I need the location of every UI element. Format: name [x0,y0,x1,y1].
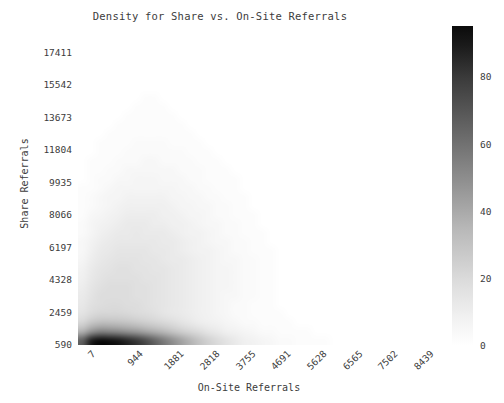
x-tick-label: 944 [125,348,145,368]
plot-area[interactable] [78,40,420,345]
y-tick-label: 11804 [0,144,72,155]
y-tick-label: 9935 [0,176,72,187]
x-tick-label: 8439 [412,348,436,372]
colorbar-tick-label: 20 [480,272,491,283]
x-tick-label: 2818 [198,348,222,372]
y-tick-label: 15542 [0,79,72,90]
chart-figure: Density for Share vs. On-Site Referrals … [0,0,504,403]
density-heatmap[interactable] [78,40,420,345]
x-tick-label: 4691 [269,348,293,372]
y-tick-label: 4328 [0,274,72,285]
y-axis-title: Share Referrals [19,114,30,254]
x-tick-label: 7502 [376,348,400,372]
colorbar-tick-label: 0 [480,340,486,351]
x-tick-label: 3755 [233,348,257,372]
x-axis-title: On-Site Referrals [78,382,420,393]
colorbar-gradient [452,26,473,345]
y-tick-label: 17411 [0,47,72,58]
y-tick-label: 6197 [0,241,72,252]
y-tick-label: 8066 [0,209,72,220]
colorbar-tick-labels: 020406080 [473,26,504,345]
x-tick-label: 5628 [305,348,329,372]
x-tick-label: 7 [86,348,98,360]
y-axis-tick-labels: 5902459432861978066993511804136731554217… [0,40,72,345]
colorbar[interactable]: 020406080 [452,26,473,345]
page-title: Density for Share vs. On-Site Referrals [0,10,440,22]
y-tick-label: 590 [0,339,72,350]
colorbar-tick-label: 80 [480,71,491,82]
y-tick-label: 13673 [0,111,72,122]
x-axis-tick-labels: 794418812818375546915628656575028439 [78,345,420,385]
colorbar-tick-label: 60 [480,138,491,149]
y-tick-label: 2459 [0,306,72,317]
x-tick-label: 1881 [162,348,186,372]
colorbar-tick-label: 40 [480,205,491,216]
x-tick-label: 6565 [340,348,364,372]
